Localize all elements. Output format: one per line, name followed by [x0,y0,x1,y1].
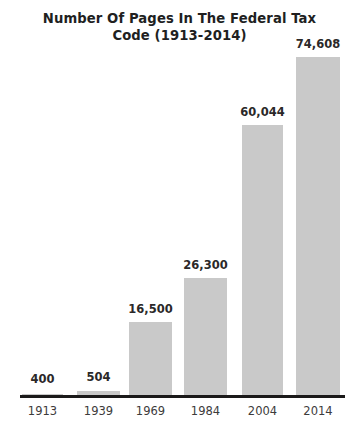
bar-value-label: 74,608 [280,37,356,51]
bar-group-1969: 16,500 1969 [129,0,172,428]
bar-group-1913: 400 1913 [22,0,63,428]
x-axis-line [20,395,345,398]
bar-rect[interactable] [296,57,340,396]
bar-value-label: 504 [61,370,136,384]
bar-rect[interactable] [242,125,283,396]
bar-rect[interactable] [129,322,172,396]
bar-group-2004: 60,044 2004 [242,0,283,428]
bar-rect[interactable] [184,278,227,396]
bar-value-label: 26,300 [168,258,243,272]
bar-value-label: 16,500 [113,302,188,316]
bar-year-label: 2014 [280,404,356,418]
bar-group-2014: 74,608 2014 [296,0,340,428]
bar-group-1984: 26,300 1984 [184,0,227,428]
bar-chart: Number Of Pages In The Federal Tax Code … [0,0,359,428]
plot-area: 400 1913 504 1939 16,500 1969 26,300 198… [0,0,359,428]
bar-group-1939: 504 1939 [77,0,120,428]
bar-value-label: 60,044 [226,105,299,119]
